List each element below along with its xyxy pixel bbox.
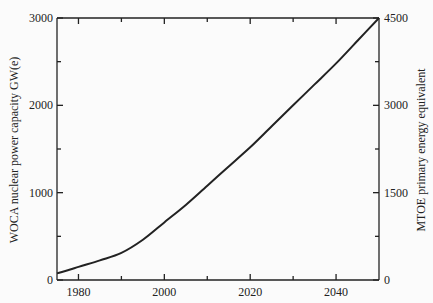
y-tick-label: 2000 [29, 98, 53, 112]
y2-tick-label: 1500 [384, 186, 408, 200]
y-tick-label: 1000 [29, 186, 53, 200]
y-tick-label: 3000 [29, 11, 53, 25]
y-axis-title: WOCA nuclear power capacity GW(e) [7, 57, 21, 244]
y-axis-left: 0100020003000 [29, 11, 63, 287]
y2-tick-label: 0 [384, 273, 390, 287]
y-tick-label: 0 [47, 273, 53, 287]
x-tick-label: 2000 [152, 285, 176, 299]
y2-tick-label: 3000 [384, 98, 408, 112]
y2-tick-label: 4500 [384, 11, 408, 25]
y-axis-right: 0150030004500 [373, 11, 408, 287]
chart: 1980200020202040 0100020003000 015003000… [0, 0, 433, 303]
x-tick-label: 2040 [324, 285, 348, 299]
x-tick-label: 1980 [66, 285, 90, 299]
x-tick-label: 2020 [238, 285, 262, 299]
capacity-curve [57, 18, 379, 273]
y2-axis-title: MTOE primary energy equivalent [414, 68, 428, 232]
plot-frame [57, 18, 379, 280]
